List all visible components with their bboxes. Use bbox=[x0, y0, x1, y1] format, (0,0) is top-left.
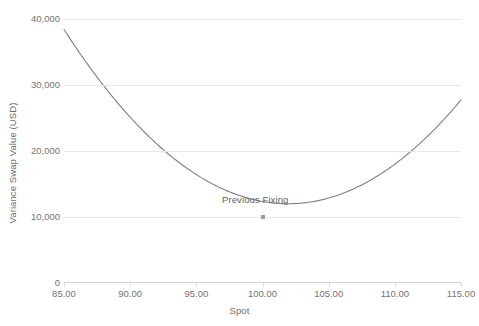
x-axis-tick-label: 110.00 bbox=[365, 288, 425, 300]
gridline bbox=[64, 85, 461, 86]
previous-fixing-marker bbox=[261, 215, 265, 219]
x-axis-tick-label: 115.00 bbox=[431, 288, 479, 300]
x-axis-tick-label: 90.00 bbox=[100, 288, 160, 300]
plot-area bbox=[64, 19, 461, 283]
y-axis-tick-label: 30,000 bbox=[14, 80, 60, 90]
y-axis-tick-label: 20,000 bbox=[14, 146, 60, 156]
y-axis-tick-label: 40,000 bbox=[14, 14, 60, 24]
gridline bbox=[64, 151, 461, 152]
x-axis-tick-label: 85.00 bbox=[34, 288, 94, 300]
y-axis-tick-labels: 010,00020,00030,00040,000 bbox=[8, 0, 60, 326]
x-axis-tick bbox=[461, 283, 462, 287]
x-axis-tick-label: 105.00 bbox=[299, 288, 359, 300]
x-axis-tick bbox=[263, 283, 264, 287]
y-axis-tick-label: 0 bbox=[14, 278, 60, 288]
x-axis-tick bbox=[64, 283, 65, 287]
x-axis-tick bbox=[196, 283, 197, 287]
x-axis-tick-label: 100.00 bbox=[233, 288, 293, 300]
x-axis-tick bbox=[130, 283, 131, 287]
variance-swap-chart: Variance Swap Value (USD) 010,00020,0003… bbox=[0, 0, 479, 326]
variance-swap-curve bbox=[64, 29, 461, 203]
x-axis-tick bbox=[329, 283, 330, 287]
y-axis-tick-label: 10,000 bbox=[14, 212, 60, 222]
x-axis-title: Spot bbox=[0, 305, 479, 316]
x-axis-tick-labels: 85.0090.0095.00100.00105.00110.00115.00 bbox=[0, 288, 479, 302]
x-axis-tick bbox=[395, 283, 396, 287]
previous-fixing-annotation-label: Previous Fixing bbox=[222, 194, 288, 205]
gridline bbox=[64, 19, 461, 20]
x-axis-tick-label: 95.00 bbox=[166, 288, 226, 300]
